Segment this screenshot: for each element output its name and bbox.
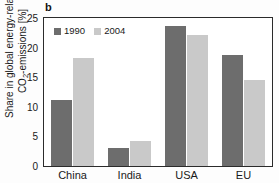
legend-swatch-icon [94,28,101,35]
figure-panel-b: b Share in global energy-related CO2-emi… [0,0,279,183]
legend-entry: 1990 [54,26,85,36]
y-axis-tick-label: 0 [32,161,38,172]
y-axis-tick-label: 10 [27,101,38,112]
bar-china-2004 [73,58,94,166]
x-axis-tick-label-eu: EU [236,169,251,182]
y-axis-title-line1: Share in global energy-related [4,0,15,118]
x-axis-tick-label-china: China [58,169,87,182]
y-axis-tick-label: 5 [32,131,38,142]
legend: 19902004 [54,26,125,36]
legend-entry: 2004 [94,26,125,36]
bar-eu-1990 [222,55,243,166]
bars-layer [44,18,272,166]
legend-swatch-icon [54,28,61,35]
bar-china-1990 [51,100,72,166]
x-axis-tick-labels: ChinaIndiaUSAEU [43,169,273,183]
legend-label: 2004 [104,26,125,36]
bar-usa-1990 [165,26,186,166]
plot-area: 19902004 [43,17,273,167]
bar-india-2004 [130,141,151,166]
y-axis-tick-label: 20 [27,42,38,53]
y-axis-tick-label: 25 [27,13,38,24]
bar-india-1990 [108,148,129,166]
y-axis-tick-label: 15 [27,72,38,83]
legend-label: 1990 [64,26,85,36]
x-axis-tick-label-usa: USA [175,169,198,182]
bar-eu-2004 [244,80,265,166]
bar-usa-2004 [187,35,208,166]
x-axis-tick-label-india: India [118,169,142,182]
y-axis-tick-labels: 0510152025 [16,11,38,173]
